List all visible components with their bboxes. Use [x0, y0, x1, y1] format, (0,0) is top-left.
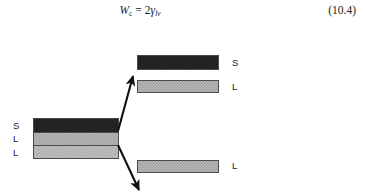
equation-number: (10.4) [328, 4, 356, 16]
equation-formula: Wc=2γlv [0, 4, 280, 18]
equation-lhs-subscript: c [129, 9, 132, 18]
stack-label-liquid-lower: L [13, 148, 18, 158]
separated-bar-solid [137, 55, 219, 70]
figure-wetting-separation-diagram: S L L S L L [0, 30, 365, 195]
equation-rhs-subscript: lv [155, 9, 160, 18]
separated-bar-solid-label: S [232, 58, 238, 68]
equation-lhs-symbol: W [119, 4, 129, 16]
stack-label-solid: S [13, 121, 19, 131]
left-stack [33, 118, 119, 159]
equation-operator: = [135, 4, 142, 16]
equation-row: Wc=2γlv (10.4) [0, 0, 365, 30]
separated-bar-liquid-lower [137, 160, 219, 173]
left-stack-band-liquid-lower [34, 146, 118, 158]
separation-arrow-down [118, 145, 139, 190]
left-stack-band-solid [34, 119, 118, 133]
stack-label-liquid-upper: L [13, 134, 18, 144]
separated-bar-liquid-upper [137, 80, 219, 93]
separated-bar-liquid-upper-label: L [232, 82, 237, 92]
separated-bar-liquid-lower-label: L [232, 161, 237, 171]
separation-arrow-up [118, 76, 133, 131]
left-stack-band-liquid-upper [34, 133, 118, 146]
